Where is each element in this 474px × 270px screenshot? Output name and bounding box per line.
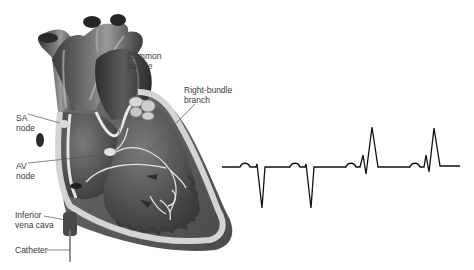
av-node-structure xyxy=(104,148,116,156)
label-catheter: Catheter xyxy=(15,245,48,255)
pulmonary-vein-stub xyxy=(36,133,44,147)
vessel-opening-2 xyxy=(83,16,101,28)
vessel-opening-3 xyxy=(110,14,126,26)
label-av-node: AV node xyxy=(16,161,35,181)
label-sa-node: SA node xyxy=(16,113,35,133)
label-right-bundle-branch: Right-bundle branch xyxy=(184,85,232,105)
label-common-bundle: Common bundle xyxy=(127,51,161,71)
sa-node-structure xyxy=(59,120,69,128)
vessel-opening-1 xyxy=(38,33,58,43)
label-inferior-vena-cava: Inferior vena cava xyxy=(15,210,54,230)
coronary-sinus-opening xyxy=(70,183,82,189)
valve-leaflets xyxy=(129,97,155,120)
diagram-canvas: Common bundle Right-bundle branch SA nod… xyxy=(0,0,474,270)
ecg-trace xyxy=(222,127,460,208)
